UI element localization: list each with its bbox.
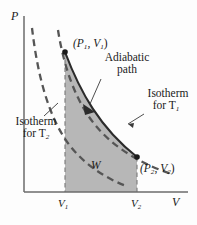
state-2-v-symbol: , V <box>154 162 167 174</box>
y-axis-label: P <box>11 10 18 22</box>
x-tick-v1-subscript: 1 <box>65 203 68 210</box>
leader-adiabatic <box>90 79 101 104</box>
state-1-close-paren: ) <box>104 37 108 49</box>
isotherm-t1-label: Isotherm for T1 <box>140 88 196 113</box>
isotherm-t1-subscript: 1 <box>176 105 180 113</box>
x-tick-v2-symbol: V <box>131 197 138 209</box>
adiabatic-path-label: Adiabatic path <box>96 52 158 75</box>
point-marker-state-2 <box>134 154 140 160</box>
isotherm-t2-subscript: 2 <box>46 133 50 141</box>
adiabatic-label-line1: Adiabatic <box>96 52 158 64</box>
leader-isotherm-t1 <box>128 114 144 124</box>
state-1-p-symbol: (P <box>73 37 84 49</box>
isotherm-t1-label-line2: for T1 <box>136 100 196 113</box>
isotherm-t2-for-t: for T <box>23 127 46 139</box>
state-1-v-symbol: , V <box>87 37 100 49</box>
point-marker-state-1 <box>62 49 68 55</box>
x-axis-label: V <box>172 196 179 208</box>
point-label-state-2: (P2, V2) <box>140 163 175 176</box>
pv-diagram-figure: P V V1 V2 (P1, V1) (P2, V2) W Adiabatic … <box>0 0 197 225</box>
state-2-close-paren: ) <box>171 162 175 174</box>
state-2-p-symbol: (P <box>140 162 151 174</box>
isotherm-t2-label-line2: for T2 <box>8 128 64 141</box>
x-tick-label-v1: V1 <box>58 198 68 211</box>
work-region-label: W <box>91 160 101 172</box>
isotherm-t1-for-t: for T <box>153 99 176 111</box>
x-tick-v1-symbol: V <box>58 197 65 209</box>
adiabatic-label-line2: path <box>96 64 158 76</box>
x-tick-label-v2: V2 <box>131 198 141 211</box>
isotherm-t2-label: Isotherm for T2 <box>8 116 64 141</box>
point-label-state-1: (P1, V1) <box>73 38 108 51</box>
x-tick-v2-subscript: 2 <box>138 203 141 210</box>
